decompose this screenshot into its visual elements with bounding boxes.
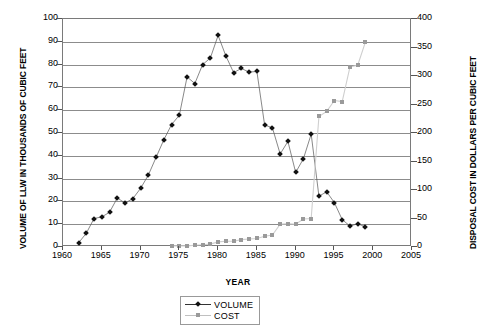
plot-area — [62, 18, 411, 246]
data-point-cost — [239, 238, 243, 242]
y-axis-right-tick — [411, 218, 417, 219]
y-axis-left-title: VOLUME OF LLW IN THOUSANDS OF CUBIC FEET — [18, 48, 28, 249]
y-axis-left-tick — [56, 200, 62, 201]
cost-legend-symbol — [185, 310, 211, 321]
data-point-cost — [317, 114, 321, 118]
volume-legend-symbol — [185, 299, 211, 310]
data-point-cost — [185, 244, 189, 248]
x-axis-tick — [101, 246, 102, 250]
series-line-volume — [79, 35, 366, 242]
legend-item-cost: COST — [185, 310, 253, 321]
y-axis-right-tick — [411, 75, 417, 76]
x-axis-tick-label: 1975 — [161, 250, 195, 260]
y-axis-right-tick — [411, 47, 417, 48]
x-axis-tick-label: 1960 — [45, 250, 79, 260]
x-axis-tick-label: 1980 — [200, 250, 234, 260]
y-axis-left-tick-label: 60 — [34, 104, 58, 113]
x-axis-tick-label: 2005 — [394, 250, 428, 260]
y-axis-left-tick — [56, 41, 62, 42]
legend-item-volume: VOLUME — [185, 299, 253, 310]
x-axis-tick — [372, 246, 373, 250]
y-axis-left-tick-label: 70 — [34, 81, 58, 90]
y-axis-right-tick — [411, 104, 417, 105]
legend-label-cost: COST — [214, 311, 240, 321]
y-axis-left-tick — [56, 64, 62, 65]
y-axis-right-tick-label: 400 — [417, 13, 443, 22]
y-axis-left-tick — [56, 86, 62, 87]
data-point-cost — [201, 243, 205, 247]
y-axis-right-tick-label: 350 — [417, 42, 443, 51]
x-axis-tick — [140, 246, 141, 250]
x-axis-tick — [333, 246, 334, 250]
x-axis-tick — [217, 246, 218, 250]
x-axis-tick-label: 2000 — [355, 250, 389, 260]
y-axis-left-tick — [56, 178, 62, 179]
y-axis-left-tick-label: 40 — [34, 150, 58, 159]
y-axis-right-tick-label: 100 — [417, 184, 443, 193]
y-axis-left-tick — [56, 109, 62, 110]
data-point-cost — [232, 239, 236, 243]
y-axis-left-tick-label: 100 — [34, 13, 58, 22]
data-point-cost — [309, 217, 313, 221]
y-axis-right-tick — [411, 18, 417, 19]
data-point-cost — [348, 65, 352, 69]
x-axis-tick — [62, 246, 63, 250]
legend-label-volume: VOLUME — [214, 300, 253, 310]
data-point-cost — [294, 222, 298, 226]
y-axis-right-tick-label: 0 — [417, 241, 443, 250]
x-axis-tick — [295, 246, 296, 250]
y-axis-left-tick — [56, 223, 62, 224]
data-point-cost — [332, 99, 336, 103]
data-point-cost — [247, 237, 251, 241]
data-point-cost — [301, 217, 305, 221]
y-axis-right-tick — [411, 161, 417, 162]
y-axis-right-tick — [411, 132, 417, 133]
x-axis-tick-label: 1995 — [316, 250, 350, 260]
y-axis-left-tick-label: 20 — [34, 195, 58, 204]
data-point-cost — [193, 243, 197, 247]
series-line-cost — [172, 42, 366, 246]
y-axis-right-tick-label: 200 — [417, 127, 443, 136]
y-axis-right-tick-label: 50 — [417, 213, 443, 222]
y-axis-right-tick — [411, 189, 417, 190]
data-point-cost — [170, 244, 174, 248]
y-axis-right-tick-label: 250 — [417, 99, 443, 108]
data-point-cost — [208, 242, 212, 246]
y-axis-left-tick — [56, 18, 62, 19]
y-axis-left-tick-label: 10 — [34, 218, 58, 227]
data-point-cost — [278, 222, 282, 226]
series-lines — [63, 19, 412, 247]
y-axis-right-tick-label: 300 — [417, 70, 443, 79]
data-point-cost — [340, 100, 344, 104]
x-axis-tick — [256, 246, 257, 250]
y-axis-left-tick-label: 0 — [34, 241, 58, 250]
x-axis-tick-label: 1990 — [278, 250, 312, 260]
chart-legend: VOLUME COST — [180, 296, 260, 325]
x-axis-tick — [411, 246, 412, 250]
data-point-cost — [286, 222, 290, 226]
y-axis-left-tick-label: 30 — [34, 173, 58, 182]
x-axis-tick-label: 1965 — [84, 250, 118, 260]
data-point-cost — [325, 109, 329, 113]
data-point-cost — [224, 239, 228, 243]
data-point-cost — [263, 234, 267, 238]
x-axis-tick-label: 1970 — [123, 250, 157, 260]
data-point-cost — [356, 63, 360, 67]
y-axis-left-tick-label: 80 — [34, 59, 58, 68]
y-axis-right-tick-label: 150 — [417, 156, 443, 165]
data-point-cost — [255, 236, 259, 240]
data-point-cost — [216, 240, 220, 244]
data-point-cost — [270, 233, 274, 237]
x-axis-tick-label: 1985 — [239, 250, 273, 260]
y-axis-left-tick — [56, 132, 62, 133]
x-axis-title: YEAR — [0, 277, 476, 287]
y-axis-right-title: DISPOSAL COST IN DOLLARS PER CUBIC FEET — [468, 56, 478, 249]
y-axis-left-tick-label: 90 — [34, 36, 58, 45]
data-point-cost — [363, 40, 367, 44]
x-axis-tick — [178, 246, 179, 250]
y-axis-left-tick — [56, 155, 62, 156]
y-axis-left-tick-label: 50 — [34, 127, 58, 136]
